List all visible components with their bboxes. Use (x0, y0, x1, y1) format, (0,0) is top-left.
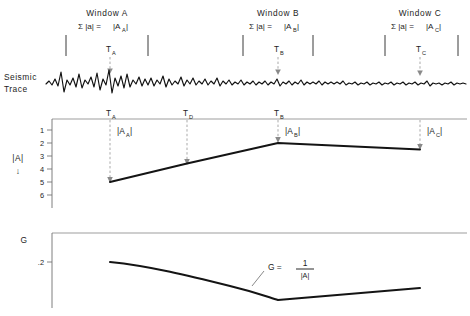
amplitude-marker-tb-label: T (274, 109, 279, 118)
window-b-sum-label: Σ |a| = (249, 22, 272, 31)
gain-y-ticks: .2 (38, 258, 52, 267)
amplitude-value-ab: |A B | (285, 126, 300, 138)
window-b-result-label: |A (284, 22, 292, 31)
amplitude-value-aa: |A A | (117, 126, 132, 138)
window-b-title: Window B (257, 8, 299, 18)
window-a-result-label: |A (113, 22, 121, 31)
amplitude-value-ac-tail: | (440, 126, 442, 136)
amplitude-marker-ta-label: T (106, 109, 111, 118)
trace-panel: Window A Σ |a| = |A A | Window B Σ |a| =… (4, 8, 466, 94)
amplitude-value-aa-tail: | (130, 126, 132, 136)
trace-pick-c-sub: C (422, 50, 426, 56)
trace-pick-b: T B (274, 45, 284, 75)
trace-pick-b-arrow-icon (275, 70, 281, 76)
amplitude-y-ticks: 1 2 3 4 5 6 (40, 126, 52, 200)
gain-panel: .2 G G = 1 |A| (20, 233, 467, 308)
amplitude-axis-label: |A| (12, 153, 23, 163)
trace-pick-a-label: T (106, 45, 111, 54)
amplitude-marker-tc: |A C | (417, 120, 442, 150)
amplitude-tick-label-5: 5 (40, 178, 44, 187)
amplitude-marker-tb-sub: B (280, 114, 284, 120)
trace-pick-c-label: T (416, 45, 421, 54)
amplitude-value-ab-tail: | (298, 126, 300, 136)
amplitude-tick-label-3: 3 (40, 152, 44, 161)
gain-equation-leader (252, 271, 264, 286)
amplitude-tick-label-2: 2 (40, 139, 44, 148)
gain-axis-label: G (20, 235, 27, 245)
trace-pick-b-sub: B (280, 50, 284, 56)
seismic-gain-figure: Window A Σ |a| = |A A | Window B Σ |a| =… (0, 0, 470, 316)
window-b-sum: Σ |a| = |A B | (249, 22, 299, 33)
window-c-title: Window C (399, 8, 442, 18)
trace-pick-a: T A (106, 45, 116, 74)
amplitude-axis-label-group: |A| ↓ (12, 153, 23, 176)
seismic-trace-waveform (46, 70, 466, 93)
amplitude-marker-td-sub: D (189, 114, 193, 120)
trace-pick-c-arrow-icon (417, 71, 423, 77)
figure-root: Window A Σ |a| = |A A | Window B Σ |a| =… (0, 0, 470, 316)
trace-pick-a-sub: A (112, 50, 116, 56)
window-c-result-tail: | (439, 22, 441, 31)
gain-curve (110, 262, 420, 300)
amplitude-curve (110, 143, 420, 182)
amplitude-marker-ta-sub: A (112, 114, 116, 120)
amplitude-tick-label-6: 6 (40, 191, 44, 200)
amplitude-value-ab-label: |A (285, 126, 293, 136)
gain-equation-denominator: |A| (301, 271, 310, 280)
gain-equation-lhs: G = (268, 262, 282, 272)
gain-equation: G = 1 |A| (268, 258, 314, 280)
window-a-sum: Σ |a| = |A A | (78, 22, 128, 33)
window-b-result-tail: | (297, 22, 299, 31)
amplitude-panel: 1 2 3 4 5 6 |A| ↓ T A (12, 109, 467, 208)
trace-row-label-line2: Trace (4, 84, 28, 94)
window-a-result-tail: | (126, 22, 128, 31)
amplitude-value-aa-label: |A (117, 126, 125, 136)
amplitude-axis-arrow-icon: ↓ (16, 166, 21, 176)
trace-row-label: Seismic Trace (4, 72, 37, 94)
trace-row-label-line1: Seismic (4, 72, 37, 82)
amplitude-marker-td: T D (183, 109, 193, 165)
window-a-sum-label: Σ |a| = (78, 22, 101, 31)
amplitude-tick-label-1: 1 (40, 126, 44, 135)
gain-equation-numerator: 1 (303, 258, 308, 268)
gain-tick-label-02: .2 (38, 258, 44, 267)
window-c-sum: Σ |a| = |A C | (391, 22, 441, 33)
window-a-title: Window A (86, 8, 128, 18)
trace-pick-b-label: T (274, 45, 279, 54)
amplitude-marker-tb: T B |A B | (274, 109, 300, 143)
amplitude-value-ac: |A C | (427, 126, 442, 138)
amplitude-value-ac-label: |A (427, 126, 435, 136)
trace-pick-c: T C (416, 45, 426, 76)
window-c-result-label: |A (426, 22, 434, 31)
window-c-sum-label: Σ |a| = (391, 22, 414, 31)
amplitude-tick-label-4: 4 (40, 165, 44, 174)
amplitude-marker-td-label: T (183, 109, 188, 118)
amplitude-marker-ta: T A |A A | (106, 109, 132, 183)
